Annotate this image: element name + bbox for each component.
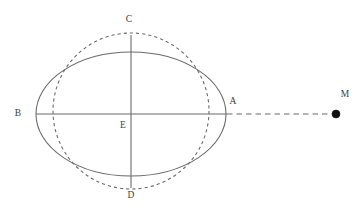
vertex-label-m: M [341,90,350,100]
vertex-label-c: C [126,15,133,25]
figure-background [0,0,358,216]
vertex-label-b: B [15,109,22,119]
point-m-marker [332,110,340,118]
geometry-figure [0,0,358,216]
vertex-label-d: D [127,191,134,201]
diagram-canvas: A B C D E M [0,0,358,216]
vertex-label-e: E [120,121,126,131]
vertex-label-a: A [229,97,236,107]
